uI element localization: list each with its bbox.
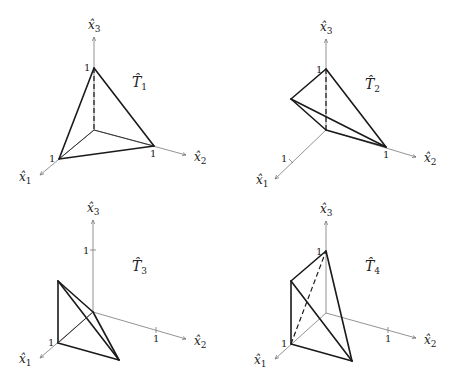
x2-axis-label: x̂2 bbox=[424, 333, 437, 349]
x2-axis-label: x̂2 bbox=[194, 150, 207, 166]
x3-axis-label: x̂3 bbox=[320, 20, 333, 36]
panel-t3: x̂3 x̂2 x̂1 1 1 1 T̂3 bbox=[19, 201, 207, 368]
panel-t2: x̂3 x̂2 x̂1 1 1 1 T̂2 bbox=[256, 20, 437, 189]
x1-axis-label: x̂1 bbox=[19, 170, 32, 186]
x1-axis-label: x̂1 bbox=[19, 352, 32, 368]
panel-title: T̂3 bbox=[132, 257, 147, 276]
x3-tick-label: 1 bbox=[316, 246, 322, 257]
panel-title: T̂1 bbox=[132, 73, 147, 92]
x3-tick-label: 1 bbox=[316, 64, 322, 75]
x1-tick-label: 1 bbox=[281, 338, 287, 349]
tetrahedron-edges bbox=[291, 251, 352, 361]
x1-tick-label: 1 bbox=[48, 337, 54, 348]
x1-tick bbox=[289, 159, 293, 163]
x2-axis bbox=[326, 313, 416, 338]
axes bbox=[40, 37, 186, 175]
axes bbox=[275, 221, 416, 359]
x2-axis bbox=[93, 312, 186, 339]
x3-tick-label: 1 bbox=[84, 62, 90, 73]
tetrahedra-figure: x̂3 x̂2 x̂1 1 1 1 T̂1 x̂3 x̂2 x̂1 1 1 1 … bbox=[0, 0, 455, 384]
x1-tick-label: 1 bbox=[49, 153, 55, 164]
x3-axis-label: x̂3 bbox=[320, 202, 333, 218]
x1-axis-label: x̂1 bbox=[256, 173, 269, 189]
x1-tick-label: 1 bbox=[281, 153, 287, 164]
x2-tick-label: 1 bbox=[150, 148, 156, 159]
x1-axis-label: x̂1 bbox=[254, 353, 267, 369]
axes bbox=[275, 39, 416, 179]
panel-t1: x̂3 x̂2 x̂1 1 1 1 T̂1 bbox=[19, 18, 207, 186]
x3-axis-label: x̂3 bbox=[88, 18, 101, 34]
panel-title: T̂4 bbox=[365, 257, 380, 276]
panel-t4: x̂3 x̂2 x̂1 1 1 1 T̂4 bbox=[254, 202, 437, 369]
axes bbox=[40, 220, 186, 358]
tetrahedron-edges bbox=[58, 281, 119, 360]
panel-title: T̂2 bbox=[365, 75, 380, 94]
x2-tick-label: 1 bbox=[153, 333, 159, 344]
x3-axis-label: x̂3 bbox=[87, 201, 100, 217]
x2-tick-label: 1 bbox=[383, 149, 389, 160]
x2-axis-label: x̂2 bbox=[424, 151, 437, 167]
x3-tick-label: 1 bbox=[83, 245, 89, 256]
x2-tick-label: 1 bbox=[385, 333, 391, 344]
x2-axis-label: x̂2 bbox=[194, 334, 207, 350]
